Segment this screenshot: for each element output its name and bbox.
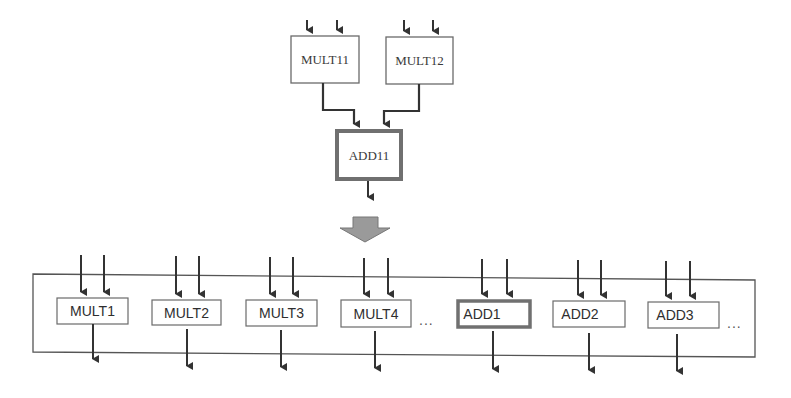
ellipsis-add: ...: [727, 315, 742, 331]
add11-unit: ADD11: [337, 131, 401, 179]
mult2-unit: MULT2: [152, 256, 221, 366]
mult4-unit: MULT4: [341, 258, 411, 368]
connector-mult12-add11: [384, 84, 419, 124]
mult11-unit: MULT11: [291, 36, 359, 83]
mult4-label: MULT4: [354, 306, 399, 322]
ellipsis-mult: ...: [419, 312, 434, 328]
add3-label: ADD3: [656, 307, 694, 323]
add1-unit: ADD1: [458, 259, 530, 369]
add2-label: ADD2: [561, 306, 599, 322]
diagram-canvas: MULT11 MULT12 ADD11 MULT1: [0, 0, 791, 398]
bottom-section: MULT1 MULT2 MULT3 MULT4 ...: [33, 255, 755, 371]
mult12-unit: MULT12: [386, 37, 453, 84]
add2-unit: ADD2: [553, 260, 625, 370]
mult12-label: MULT12: [395, 53, 444, 68]
mult1-label: MULT1: [70, 303, 115, 319]
add1-label: ADD1: [463, 306, 501, 322]
add3-unit: ADD3: [648, 261, 719, 371]
mult11-label: MULT11: [301, 52, 349, 67]
add11-label: ADD11: [349, 148, 390, 163]
mult1-unit: MULT1: [57, 255, 128, 359]
top-section: MULT11 MULT12 ADD11: [291, 20, 453, 197]
mult3-label: MULT3: [259, 305, 304, 321]
down-arrow-icon: [340, 217, 390, 242]
mult2-label: MULT2: [164, 305, 209, 321]
connector-mult11-add11: [323, 83, 354, 124]
mult3-unit: MULT3: [246, 257, 317, 367]
